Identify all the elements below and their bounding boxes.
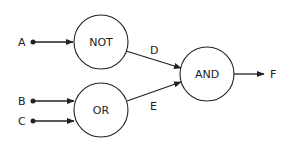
gate-and-label: AND — [195, 68, 219, 81]
wire-e: E — [127, 82, 181, 113]
wire-e-label: E — [150, 100, 157, 113]
wire-or-to-and — [127, 82, 181, 101]
logic-diagram: A B C NOT OR D E AND F — [0, 0, 294, 149]
wire-d-label: D — [150, 44, 158, 57]
input-a: A — [18, 36, 73, 49]
gate-not-label: NOT — [89, 36, 113, 49]
input-c: C — [18, 115, 74, 128]
gate-not: NOT — [74, 15, 128, 69]
input-b: B — [18, 95, 74, 108]
wire-d: D — [126, 44, 181, 68]
input-b-label: B — [18, 95, 26, 108]
input-a-label: A — [18, 36, 26, 49]
gate-or: OR — [74, 83, 128, 137]
output-f: F — [234, 68, 276, 81]
gate-and: AND — [180, 47, 234, 101]
output-f-label: F — [270, 68, 276, 81]
input-c-label: C — [18, 115, 26, 128]
gate-or-label: OR — [93, 104, 110, 117]
